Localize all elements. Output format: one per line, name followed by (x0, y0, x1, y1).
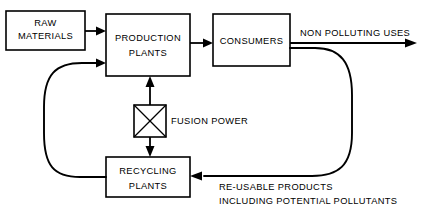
arrowhead-production-to-consumers (203, 39, 213, 48)
fusion-power-label: FUSION POWER (171, 116, 248, 126)
arrowhead-reusable-products-to-recycling (190, 172, 202, 181)
node-production-plants (106, 14, 190, 76)
reusable-products-label-line1: RE-USABLE PRODUCTS (219, 182, 333, 192)
raw-materials-label-line2: MATERIALS (18, 31, 73, 41)
arrowhead-raw-to-production (96, 27, 106, 36)
consumers-label: CONSUMERS (220, 36, 284, 46)
recycling-plants-label-line2: PLANTS (129, 181, 167, 191)
arrowhead-fusion-to-recycling (146, 146, 155, 157)
arrowhead-fusion-to-production (146, 76, 155, 87)
edge-recycling-to-production-loop (44, 63, 106, 177)
recycling-plants-label-line1: RECYCLING (119, 166, 176, 176)
arrowhead-recycling-to-production (96, 59, 106, 68)
raw-materials-label-line1: RAW (34, 18, 56, 28)
non-polluting-uses-label: NON POLLUTING USES (300, 28, 410, 38)
production-plants-label-line2: PLANTS (129, 48, 167, 58)
arrowhead-non-polluting-uses (405, 39, 417, 48)
reusable-products-label-line2: INCLUDING POTENTIAL POLLUTANTS (219, 196, 397, 206)
production-plants-label-line1: PRODUCTION (115, 33, 181, 43)
flow-diagram: RAW MATERIALS PRODUCTION PLANTS CONSUMER… (0, 0, 427, 210)
edge-consumers-to-recycling-loop (204, 48, 352, 176)
node-recycling-plants (106, 157, 190, 197)
diagram-canvas: RAW MATERIALS PRODUCTION PLANTS CONSUMER… (0, 0, 427, 210)
